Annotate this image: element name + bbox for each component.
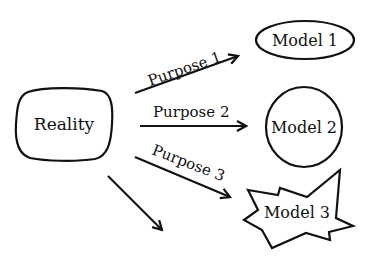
model-1-node: Model 1 [256,21,354,59]
unlabeled-arrow [108,176,162,230]
diagram-canvas: Reality Purpose 1 Purpose 2 Purpose 3 Mo… [0,0,369,263]
purpose-2-label: Purpose 2 [153,103,229,121]
model-2-node: Model 2 [266,87,342,167]
model-3-label: Model 3 [264,203,330,222]
purpose-1-label: Purpose 1 [145,48,223,90]
model-2-label: Model 2 [271,118,337,137]
purpose-1-edge: Purpose 1 [135,48,238,93]
model-3-node: Model 3 [244,170,353,248]
model-1-label: Model 1 [272,31,338,50]
purpose-3-edge: Purpose 3 [135,141,230,197]
reality-node: Reality [16,88,112,161]
reality-label: Reality [34,114,95,134]
purpose-2-edge: Purpose 2 [140,103,246,126]
